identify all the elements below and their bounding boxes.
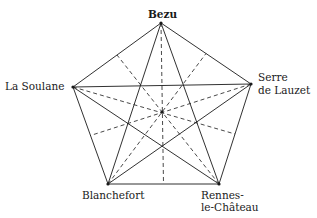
vertex-dot [71,85,74,88]
vertex-dot [217,182,220,185]
dashed-median [161,23,164,184]
vertex-dot [249,82,252,85]
label-la-soulane: La Soulane [5,80,64,92]
vertex-dot [106,182,109,185]
vertex-dot [160,110,163,113]
vertex-dot [159,21,162,24]
dashed-median [108,54,206,185]
label-rennes-line2: le-Château [201,201,259,213]
dashed-median [117,55,219,184]
pentagram-diagram [0,0,317,218]
star-line [108,23,161,184]
label-serre-line2: de Lauzet [258,84,310,96]
label-blanchefort: Blanchefort [82,189,144,201]
label-rennes-line1: Rennes- [201,189,244,201]
dashed-median [73,87,235,134]
label-bezu: Bezu [148,8,177,20]
dashed-median [91,84,252,136]
label-serre-line1: Serre [258,71,288,83]
